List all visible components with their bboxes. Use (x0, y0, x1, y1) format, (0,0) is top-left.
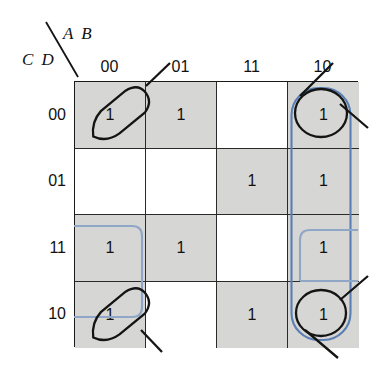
kmap-cell-r2-c3[interactable]: 1 (288, 215, 359, 282)
column-header-2: 11 (216, 58, 287, 76)
kmap-cell-r1-c2[interactable]: 1 (217, 149, 288, 216)
kmap-cell-r2-c0[interactable]: 1 (75, 215, 146, 282)
row-header-3: 10 (22, 305, 66, 323)
kmap-cell-r1-c0[interactable] (75, 149, 146, 216)
column-header-0: 00 (74, 58, 145, 76)
row-header-2: 11 (22, 239, 66, 257)
kmap-grid: 11111111111 (74, 81, 358, 347)
row-header-0: 00 (22, 106, 66, 124)
kmap-cell-value: 1 (177, 106, 186, 124)
axis-label-ab: A B (63, 24, 94, 44)
kmap-cell-value: 1 (319, 172, 328, 190)
kmap-cell-value: 1 (248, 306, 257, 324)
column-header-3: 10 (287, 58, 358, 76)
kmap-cell-r1-c3[interactable]: 1 (288, 149, 359, 216)
kmap-cell-value: 1 (177, 239, 186, 257)
kmap-cell-value: 1 (106, 306, 115, 324)
kmap-cell-value: 1 (248, 172, 257, 190)
column-header-1: 01 (145, 58, 216, 76)
kmap-cell-value: 1 (319, 106, 328, 124)
row-header-1: 01 (22, 172, 66, 190)
kmap-cell-r0-c2[interactable] (217, 82, 288, 149)
kmap-cell-value: 1 (106, 239, 115, 257)
kmap-cell-r3-c1[interactable] (146, 282, 217, 349)
kmap-cell-r3-c3[interactable]: 1 (288, 282, 359, 349)
karnaugh-map-diagram: A B C D 00 01 11 10 00 01 11 10 11111111… (0, 0, 384, 366)
kmap-cell-r1-c1[interactable] (146, 149, 217, 216)
kmap-cell-r0-c1[interactable]: 1 (146, 82, 217, 149)
kmap-cell-r3-c2[interactable]: 1 (217, 282, 288, 349)
kmap-cell-r2-c2[interactable] (217, 215, 288, 282)
kmap-cell-r2-c1[interactable]: 1 (146, 215, 217, 282)
kmap-cell-r3-c0[interactable]: 1 (75, 282, 146, 349)
kmap-cell-r0-c3[interactable]: 1 (288, 82, 359, 149)
kmap-cell-r0-c0[interactable]: 1 (75, 82, 146, 149)
kmap-cell-value: 1 (319, 239, 328, 257)
kmap-cell-value: 1 (319, 306, 328, 324)
kmap-cell-value: 1 (106, 106, 115, 124)
axis-label-cd: C D (22, 50, 56, 70)
